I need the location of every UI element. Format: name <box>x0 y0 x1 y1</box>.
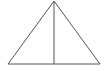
triangle-diagram <box>0 0 106 71</box>
